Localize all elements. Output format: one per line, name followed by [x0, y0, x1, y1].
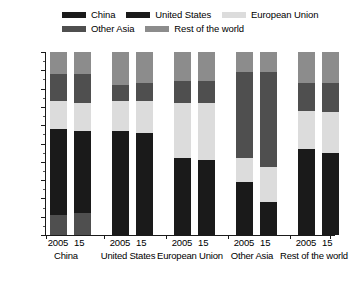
y-tick-major [41, 70, 45, 71]
x-year-label: 2005 [48, 237, 68, 249]
legend-item-other-asia[interactable]: Other Asia [62, 24, 134, 34]
bar-segment [136, 52, 153, 83]
bar-segment [260, 72, 277, 167]
legend-item-rest-of-the-world[interactable]: Rest of the world [145, 24, 244, 34]
bar-segment [322, 52, 339, 83]
bar-segment [50, 74, 67, 101]
legend-swatch-rest-of-the-world [145, 26, 169, 32]
legend-label-other-asia: Other Asia [91, 24, 134, 34]
x-year-label: 2005 [234, 237, 254, 249]
y-axis-line [45, 52, 46, 235]
bar-segment [136, 101, 153, 132]
chart-legend: ChinaUnited StatesEuropean UnionOther As… [0, 8, 349, 42]
bar-segment [298, 52, 315, 83]
bar-segment [260, 167, 277, 202]
bar-segment [112, 101, 129, 130]
x-year-labels: 200515 [274, 237, 349, 249]
x-year-label: 15 [322, 237, 332, 249]
y-tick-major [41, 235, 45, 236]
bar[interactable] [74, 52, 91, 235]
bar[interactable] [236, 52, 253, 235]
bar-segment [298, 83, 315, 110]
legend-swatch-european-union [222, 12, 246, 18]
y-tick-minor [43, 79, 45, 80]
x-axis-line [45, 235, 330, 236]
y-tick-minor [43, 61, 45, 62]
bar[interactable] [112, 52, 129, 235]
legend-item-european-union[interactable]: European Union [222, 10, 318, 20]
legend-row: Other AsiaRest of the world [0, 22, 349, 36]
y-tick-major [41, 52, 45, 53]
bar[interactable] [322, 52, 339, 235]
bar[interactable] [174, 52, 191, 235]
y-tick-major [41, 107, 45, 108]
y-tick-minor [43, 116, 45, 117]
bar[interactable] [260, 52, 277, 235]
legend-row: ChinaUnited StatesEuropean Union [0, 8, 349, 22]
bar-segment [322, 83, 339, 112]
bar-segment [198, 103, 215, 160]
bar-segment [260, 202, 277, 235]
y-tick-major [41, 180, 45, 181]
bar-segment [50, 129, 67, 215]
bar-segment [112, 131, 129, 235]
y-tick-minor [43, 134, 45, 135]
bar-segment [174, 158, 191, 235]
y-tick-major [41, 217, 45, 218]
bar-segment [236, 182, 253, 235]
legend-swatch-china [62, 12, 86, 18]
legend-label-rest-of-the-world: Rest of the world [174, 24, 244, 34]
bar-segment [198, 160, 215, 235]
x-axis-labels: 200515China200515United States200515Euro… [0, 237, 349, 283]
bar[interactable] [136, 52, 153, 235]
bar-segment [74, 52, 91, 74]
y-tick-minor [43, 189, 45, 190]
bar-segment [74, 103, 91, 130]
bar-segment [136, 83, 153, 101]
x-label-group-rest-of-the-world: 200515Rest of the world [274, 237, 349, 262]
bar-segment [112, 85, 129, 101]
bar-segment [74, 74, 91, 103]
bar-segment [298, 149, 315, 235]
bar-segment [174, 52, 191, 81]
bar-segment [298, 111, 315, 149]
x-group-name: Rest of the world [274, 249, 349, 262]
bar[interactable] [50, 52, 67, 235]
y-tick-minor [43, 171, 45, 172]
bar-segment [260, 52, 277, 72]
bar[interactable] [198, 52, 215, 235]
y-tick-minor [43, 153, 45, 154]
legend-swatch-united-states [126, 12, 150, 18]
x-year-label: 15 [260, 237, 270, 249]
x-year-label: 15 [198, 237, 208, 249]
x-year-label: 2005 [172, 237, 192, 249]
bar-segment [174, 81, 191, 103]
bar-segment [236, 72, 253, 158]
bar-segment [198, 52, 215, 81]
bar-segment [198, 81, 215, 103]
x-year-label: 15 [136, 237, 146, 249]
y-tick-major [41, 162, 45, 163]
bar-segment [236, 158, 253, 182]
bar-segment [136, 133, 153, 235]
bar-segment [50, 101, 67, 128]
bar-segment [322, 112, 339, 152]
x-year-label: 2005 [296, 237, 316, 249]
x-year-label: 15 [74, 237, 84, 249]
legend-label-china: China [91, 10, 115, 20]
bar-segment [74, 213, 91, 235]
bar-segment [112, 52, 129, 85]
y-tick-major [41, 198, 45, 199]
bar-segment [236, 52, 253, 72]
bar-segment [50, 215, 67, 235]
legend-item-china[interactable]: China [62, 10, 115, 20]
legend-label-united-states: United States [155, 10, 211, 20]
bar[interactable] [298, 52, 315, 235]
y-tick-major [41, 144, 45, 145]
y-tick-major [41, 89, 45, 90]
legend-swatch-other-asia [62, 26, 86, 32]
bar-segment [322, 153, 339, 235]
plot-area: 1009080706050403020100 [46, 52, 330, 235]
bar-segment [174, 103, 191, 158]
legend-item-united-states[interactable]: United States [126, 10, 211, 20]
